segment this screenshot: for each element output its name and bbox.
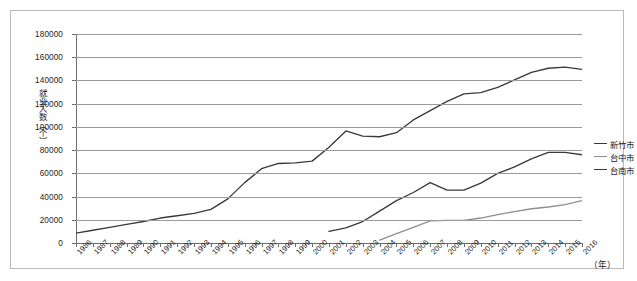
y-axis-tick-label: 80000 [40,146,63,155]
y-axis-tick-label: 60000 [40,169,63,178]
y-axis-tick-label: 40000 [40,192,63,201]
y-axis-tick-labels: 1800001600001400001200001000008000060000… [11,34,72,243]
gridline [76,150,582,151]
legend-swatch-icon [594,156,607,157]
y-axis-tick-label: 0 [58,239,63,248]
plot-area [76,34,582,243]
chart-figure: 就业人数（个） 18000016000014000012000010000080… [0,0,637,281]
legend-label: 台中市 [610,151,634,163]
y-axis-tick-label: 100000 [35,122,63,131]
legend-label: 新竹市 [610,138,634,150]
x-axis-title: （年） [589,258,616,270]
y-axis-tick-label: 140000 [35,76,63,85]
chart-legend: 新竹市台中市台南市 [594,137,637,176]
legend-swatch-icon [594,143,607,144]
legend-item[interactable]: 台南市 [594,163,637,176]
y-axis-tick-label: 120000 [35,99,63,108]
gridline [76,127,582,128]
legend-label: 台南市 [610,164,634,176]
gridline [76,80,582,81]
legend-item[interactable]: 台中市 [594,150,637,163]
gridline [76,220,582,221]
legend-swatch-icon [594,169,607,170]
gridline [76,34,582,35]
series-lines [76,34,582,243]
y-axis-tick-label: 180000 [35,30,63,39]
gridline [76,173,582,174]
y-axis-tick-label: 160000 [35,53,63,62]
gridline [76,197,582,198]
gridline [76,104,582,105]
legend-item[interactable]: 新竹市 [594,137,637,150]
gridline [76,57,582,58]
y-axis-tick-label: 20000 [40,215,63,224]
x-axis-tick-label: 2016 [581,238,600,257]
chart-frame: 就业人数（个） 18000016000014000012000010000080… [10,10,624,269]
